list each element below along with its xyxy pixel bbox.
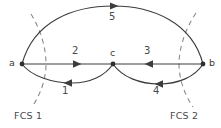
cut-label-fcs2: FCS 2: [170, 111, 198, 121]
edge-3-arrowhead: [145, 60, 154, 67]
edge-label-5: 5: [109, 12, 115, 22]
edge-5-arrowhead: [110, 3, 119, 10]
node-c-dot[interactable]: [111, 62, 116, 67]
cut-label-fcs1: FCS 1: [14, 111, 42, 121]
edge-label-2: 2: [72, 46, 78, 56]
edge-2-arrowhead: [73, 60, 82, 67]
edge-1-path: [22, 64, 113, 83]
edge-4-path: [113, 64, 203, 84]
node-label-a: a: [9, 58, 15, 68]
cut-line-fcs2: [179, 13, 196, 107]
edge-label-4: 4: [153, 86, 159, 96]
node-label-b: b: [209, 58, 215, 68]
edge-label-1: 1: [62, 86, 68, 96]
node-b-dot[interactable]: [201, 62, 206, 67]
node-label-c: c: [110, 48, 115, 58]
node-a-dot[interactable]: [20, 62, 25, 67]
figure-canvas: a c b 5 2 3 1 4 FCS 1 FCS 2: [0, 0, 221, 128]
edge-label-3: 3: [144, 46, 150, 56]
